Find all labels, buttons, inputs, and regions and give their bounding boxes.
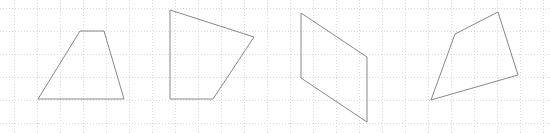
quadrilaterals-figure (0, 0, 550, 133)
figure-canvas (0, 0, 550, 133)
trapezoid-1 (38, 31, 124, 99)
grid-group (0, 0, 550, 133)
shapes-group (38, 10, 518, 122)
parallelogram-3 (301, 13, 367, 122)
quadrilateral-2 (170, 10, 254, 99)
quadrilateral-4 (431, 12, 518, 100)
